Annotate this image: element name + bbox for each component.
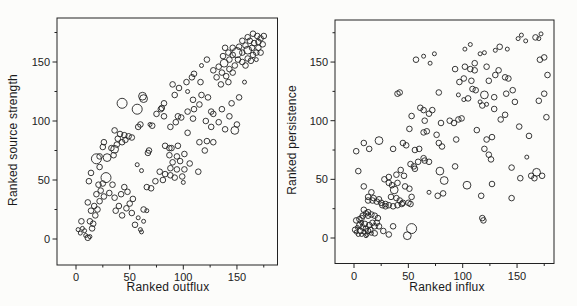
data-point <box>409 113 415 119</box>
data-point <box>103 154 111 162</box>
data-point <box>107 190 113 196</box>
data-point <box>168 165 174 171</box>
data-point <box>430 107 436 113</box>
data-point <box>129 210 135 216</box>
data-point <box>541 91 547 97</box>
data-point <box>422 54 426 58</box>
data-point <box>473 87 479 93</box>
data-point <box>421 130 427 136</box>
data-point <box>439 144 445 150</box>
data-point <box>381 228 387 234</box>
data-point <box>186 90 190 94</box>
data-point <box>232 63 238 69</box>
y-tick-label: 150 <box>32 56 50 68</box>
data-point <box>413 57 419 63</box>
data-point <box>478 193 484 199</box>
data-point <box>424 129 430 135</box>
data-point <box>153 178 159 184</box>
data-point <box>182 167 188 173</box>
data-point <box>482 146 488 152</box>
data-point <box>250 31 256 37</box>
data-point <box>497 44 503 50</box>
data-point <box>216 119 222 125</box>
data-point <box>469 78 475 84</box>
data-point <box>172 92 178 98</box>
y-tick-label: 50 <box>316 173 328 185</box>
data-point <box>176 85 182 91</box>
data-point <box>154 111 160 117</box>
data-point <box>436 140 442 146</box>
data-point <box>491 106 497 112</box>
data-point <box>427 190 431 194</box>
y-axis-label-right-panel: Ranked persistence <box>285 17 299 263</box>
y-tick-label: 100 <box>310 115 328 127</box>
data-point <box>260 42 266 48</box>
data-point <box>222 45 228 51</box>
data-point <box>222 127 228 133</box>
data-point <box>162 171 168 177</box>
data-point <box>453 137 459 143</box>
data-point <box>199 92 205 98</box>
data-point <box>462 64 468 70</box>
y-tick-label: 0 <box>322 232 328 244</box>
data-point <box>226 79 232 85</box>
data-point <box>181 180 185 184</box>
data-point <box>240 59 246 65</box>
data-point <box>398 167 404 173</box>
data-point <box>481 91 489 99</box>
data-point <box>160 177 166 183</box>
data-point <box>200 64 204 68</box>
data-point <box>174 167 180 173</box>
data-point <box>95 207 101 213</box>
data-point <box>457 79 463 85</box>
data-point <box>175 143 181 149</box>
data-point <box>407 126 413 132</box>
data-point <box>140 169 144 173</box>
data-point <box>214 75 220 81</box>
data-point <box>390 146 396 152</box>
data-point <box>136 216 140 220</box>
data-point <box>190 116 196 122</box>
data-point <box>170 82 176 88</box>
data-point <box>436 167 444 175</box>
data-point <box>463 181 471 189</box>
data-point <box>211 68 217 74</box>
data-point <box>86 178 92 184</box>
data-point <box>536 98 542 104</box>
data-point <box>185 109 191 115</box>
data-point <box>426 111 432 117</box>
dual-scatter-figure: 050100150050100150050100150050100150 Ran… <box>0 0 577 306</box>
data-point <box>512 99 518 105</box>
data-point <box>109 145 115 151</box>
data-point <box>390 224 396 230</box>
data-point <box>179 174 185 180</box>
data-point <box>422 118 428 124</box>
data-point <box>167 152 173 158</box>
data-point <box>204 138 210 144</box>
data-point <box>185 130 191 136</box>
data-point <box>220 53 226 59</box>
data-point <box>452 66 458 72</box>
data-point <box>88 170 94 176</box>
data-point <box>436 90 442 96</box>
data-point <box>478 52 482 56</box>
data-point <box>219 106 225 112</box>
data-point <box>524 39 528 43</box>
data-point <box>480 103 486 109</box>
data-point <box>236 44 242 50</box>
data-point <box>537 37 541 41</box>
data-point <box>173 119 179 125</box>
y-tick-label: 50 <box>38 174 50 186</box>
data-point <box>516 124 522 130</box>
data-point <box>130 196 136 202</box>
data-point <box>142 219 146 223</box>
data-point <box>438 120 444 126</box>
data-point <box>493 48 497 52</box>
data-point <box>386 174 392 180</box>
data-point <box>502 75 508 81</box>
data-point <box>493 72 499 78</box>
data-point <box>112 195 118 201</box>
data-point <box>407 186 413 192</box>
data-point <box>539 173 545 179</box>
data-point <box>258 50 264 56</box>
